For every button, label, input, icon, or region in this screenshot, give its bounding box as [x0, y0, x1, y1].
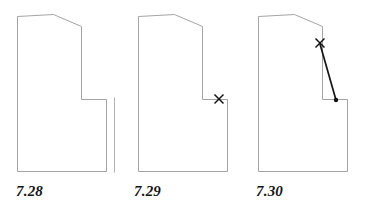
notch-cross-mark	[215, 95, 224, 104]
figure-7-29-drawing	[122, 0, 243, 178]
figure-7-28: 7.28	[0, 0, 121, 210]
figure-7-28-drawing	[0, 0, 121, 178]
dart-end-point	[334, 98, 338, 102]
figure-label: 7.28	[0, 178, 137, 210]
figure-7-29: 7.29	[122, 0, 243, 210]
pattern-block-outline	[139, 15, 228, 172]
figure-strip: 7.28 7.29 7.30	[0, 0, 365, 210]
pattern-block-outline	[18, 15, 107, 172]
cross-mark-group	[215, 95, 224, 104]
figure-label: 7.30	[244, 178, 365, 210]
figure-label: 7.29	[122, 178, 255, 210]
figure-7-30-drawing	[244, 0, 365, 178]
figure-7-30: 7.30	[244, 0, 365, 210]
dart-point-group	[334, 98, 338, 102]
